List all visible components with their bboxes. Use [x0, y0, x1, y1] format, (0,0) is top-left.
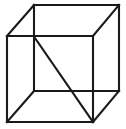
connector-top-right-edge: [93, 5, 119, 36]
wireframe-cube-figure: [0, 0, 126, 129]
cube-drawing: [0, 0, 126, 129]
face-diagonal-line: [35, 38, 93, 122]
connector-top-left-edge: [7, 5, 34, 36]
connector-bottom-right-edge: [93, 91, 119, 122]
connector-bottom-left-edge: [7, 91, 34, 122]
